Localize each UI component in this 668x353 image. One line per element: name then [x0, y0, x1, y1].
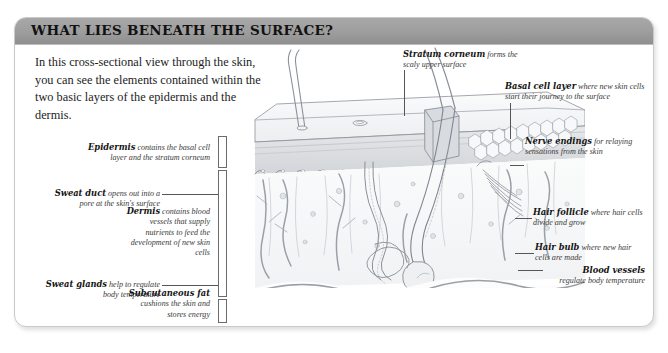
label-sweat-duct-term: Sweat duct [55, 188, 106, 198]
label-stratum-corneum: Stratum corneum forms the scaly upper su… [403, 49, 523, 71]
label-dermis: Dermis contains blood vessels that suppl… [125, 206, 210, 258]
leader-sweat-glands [162, 285, 218, 286]
intro-paragraph: In this cross-sectional view through the… [35, 54, 267, 124]
label-hair-bulb: Hair bulb where new hair cells are made [535, 242, 647, 264]
label-subcutaneous-fat-desc: cushions the skin and stores energy [141, 299, 210, 318]
label-basal-cell-layer: Basal cell layer where new skin cells st… [505, 81, 645, 103]
bracket-dermis [218, 170, 227, 297]
label-epidermis-term: Epidermis [88, 142, 135, 152]
bracket-epidermis [218, 136, 227, 168]
label-dermis-term: Dermis [127, 206, 160, 216]
leader-stratum-corneum [404, 70, 405, 116]
label-basal-cell-layer-term: Basal cell layer [505, 81, 576, 91]
label-blood-vessels: Blood vessels regulate body temperature [545, 265, 645, 287]
page-title: WHAT LIES BENEATH THE SURFACE? [31, 22, 333, 38]
leader-nerve-endings [510, 165, 524, 166]
bracket-subcutaneous [218, 299, 227, 323]
card-title-bar: WHAT LIES BENEATH THE SURFACE? [15, 18, 653, 45]
leader-hair-bulb [515, 253, 534, 254]
label-blood-vessels-term: Blood vessels [583, 265, 645, 275]
label-stratum-corneum-term: Stratum corneum [403, 49, 485, 59]
label-nerve-endings: Nerve endings for relaying sensations fr… [525, 136, 635, 158]
leader-sweat-duct [162, 194, 218, 195]
label-sweat-glands-term: Sweat glands [46, 279, 107, 289]
label-hair-follicle-term: Hair follicle [533, 207, 589, 217]
label-hair-follicle: Hair follicle where hair cells divide an… [533, 207, 645, 229]
label-hair-bulb-term: Hair bulb [535, 242, 579, 252]
leader-blood-vessels [518, 270, 543, 271]
infographic-root: WHAT LIES BENEATH THE SURFACE? In this c… [0, 0, 668, 353]
label-subcutaneous-fat: Subcutaneous fat cushions the skin and s… [123, 288, 210, 320]
label-nerve-endings-term: Nerve endings [525, 136, 592, 146]
label-epidermis: Epidermis contains the basal cell layer … [80, 142, 210, 164]
label-blood-vessels-desc: regulate body temperature [559, 276, 645, 285]
leader-hair-follicle [515, 218, 532, 219]
label-subcutaneous-fat-term: Subcutaneous fat [129, 288, 210, 298]
info-card: WHAT LIES BENEATH THE SURFACE? In this c… [14, 17, 654, 327]
leader-basal-cell-layer [510, 103, 511, 139]
